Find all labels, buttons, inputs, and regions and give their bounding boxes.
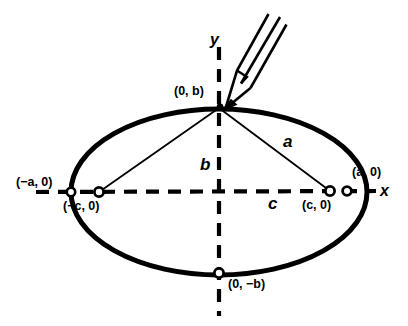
focal-radius-left-segment — [99, 108, 219, 192]
ellipse-diagram: (0, b) (0, −b) (−a, 0) (a, 0) (−c, 0) (c… — [0, 0, 408, 326]
label-segment-b: b — [200, 156, 210, 173]
pencil-icon — [223, 14, 287, 110]
marker-focus-left — [94, 187, 103, 196]
label-focus-left: (−c, 0) — [63, 200, 99, 213]
focal-radius-right-segment-a — [219, 108, 330, 191]
pencil-contact-point — [217, 104, 224, 111]
marker-vertex-left — [67, 188, 75, 196]
label-y-axis: y — [210, 32, 219, 48]
label-vertex-top: (0, b) — [174, 85, 204, 98]
label-focus-right: (c, 0) — [302, 199, 331, 212]
marker-focus-right — [325, 186, 334, 195]
label-segment-c: c — [268, 195, 277, 212]
label-segment-a: a — [283, 133, 292, 150]
marker-vertex-bottom — [214, 268, 223, 277]
label-vertex-right: (a, 0) — [352, 166, 381, 179]
marker-vertex-right — [343, 187, 352, 196]
label-x-axis: x — [380, 183, 389, 199]
label-vertex-left: (−a, 0) — [16, 176, 52, 189]
label-vertex-bottom: (0, −b) — [228, 278, 265, 291]
